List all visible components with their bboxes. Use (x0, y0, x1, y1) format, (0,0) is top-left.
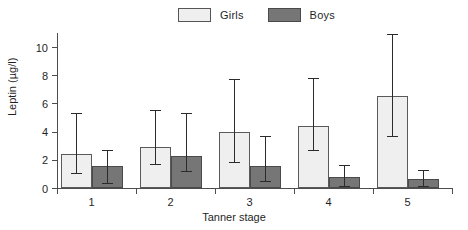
y-tick-label: 8 (42, 70, 48, 82)
y-tick: 4 (52, 132, 57, 133)
y-tick: 6 (52, 103, 57, 104)
x-tick-label: 2 (167, 196, 173, 208)
error-bar-cap-lower (229, 162, 240, 163)
x-tick-label: 4 (325, 196, 331, 208)
x-tick-label: 3 (246, 196, 252, 208)
x-axis-line (57, 188, 452, 189)
error-bar-cap-lower (260, 181, 271, 182)
x-tick (57, 188, 58, 194)
error-bar-cap-lower (71, 173, 82, 174)
error-bar-line (344, 165, 345, 185)
error-bar-cap-upper (308, 78, 319, 79)
error-bar-line (186, 113, 187, 171)
x-tick (136, 188, 137, 194)
error-bar-cap-upper (260, 136, 271, 137)
error-bar-line (313, 78, 314, 150)
error-bar-line (155, 110, 156, 164)
error-bar-cap-upper (150, 110, 161, 111)
y-tick: 10 (52, 47, 57, 48)
legend-entry-boys: Boys (268, 8, 335, 22)
leptin-tanner-stage-chart: Girls Boys Leptin (µg/l) 0246810 12345 T… (0, 0, 468, 230)
legend-entry-girls: Girls (178, 8, 244, 22)
x-tick (452, 188, 453, 194)
error-bar-cap-lower (339, 186, 350, 187)
error-bar-cap-upper (339, 165, 350, 166)
error-bar-line (234, 79, 235, 162)
x-tick (373, 188, 374, 194)
error-bar-cap-upper (387, 34, 398, 35)
error-bar-line (265, 136, 266, 181)
y-tick: 8 (52, 75, 57, 76)
x-tick-label: 5 (404, 196, 410, 208)
error-bar-cap-lower (418, 186, 429, 187)
y-axis-label: Leptin (µg/l) (6, 58, 18, 116)
y-axis-line (57, 33, 58, 188)
error-bar-cap-upper (71, 113, 82, 114)
chart-legend: Girls Boys (178, 8, 335, 22)
legend-label-boys: Boys (310, 9, 335, 21)
y-tick-label: 0 (42, 183, 48, 195)
y-tick-label: 4 (42, 126, 48, 138)
error-bar-cap-lower (102, 183, 113, 184)
x-tick (294, 188, 295, 194)
error-bar-line (107, 150, 108, 183)
y-tick-label: 2 (42, 154, 48, 166)
error-bar-cap-lower (150, 164, 161, 165)
error-bar-cap-lower (308, 150, 319, 151)
error-bar-cap-upper (181, 113, 192, 114)
error-bar-cap-upper (418, 170, 429, 171)
y-tick-label: 10 (36, 42, 48, 54)
legend-swatch-boys-icon (268, 8, 301, 22)
x-axis-label: Tanner stage (0, 211, 468, 223)
error-bar-line (76, 113, 77, 174)
error-bar-cap-upper (229, 79, 240, 80)
x-tick-label: 1 (88, 196, 94, 208)
error-bar-cap-lower (181, 171, 192, 172)
error-bar-line (392, 34, 393, 135)
error-bar-cap-upper (102, 150, 113, 151)
y-tick: 2 (52, 160, 57, 161)
plot-area: 0246810 12345 (57, 33, 452, 188)
legend-swatch-girls-icon (178, 8, 211, 22)
error-bar-cap-lower (387, 136, 398, 137)
legend-label-girls: Girls (220, 9, 244, 21)
error-bar-line (423, 170, 424, 186)
x-tick (215, 188, 216, 194)
y-tick-label: 6 (42, 98, 48, 110)
